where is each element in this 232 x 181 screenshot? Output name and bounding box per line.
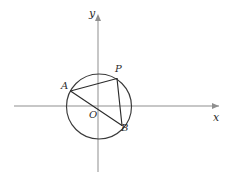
geometry-figure: y x O A P B <box>0 0 232 181</box>
point-label-P: P <box>115 64 122 74</box>
y-axis-arrowhead <box>95 14 101 21</box>
origin-label: O <box>89 110 97 120</box>
point-label-B: B <box>121 123 128 133</box>
axes-group <box>14 14 219 172</box>
segment-PB <box>117 79 122 126</box>
point-label-A: A <box>61 81 68 91</box>
y-axis-label: y <box>89 8 95 19</box>
x-axis-label: x <box>213 112 219 123</box>
segment-AP <box>71 79 118 92</box>
x-axis-arrowhead <box>212 103 219 109</box>
geometry-canvas <box>0 0 232 181</box>
